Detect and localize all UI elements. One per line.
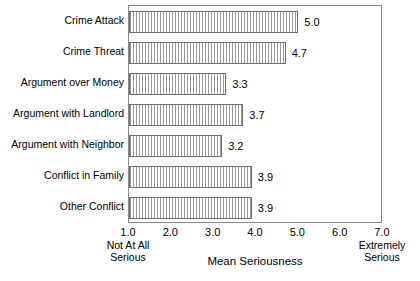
x-tick-label: 4.0 xyxy=(247,226,262,238)
x-tick-label: 2.0 xyxy=(163,226,178,238)
bar-value-label: 3.2 xyxy=(228,141,243,152)
bar-value-label: 3.3 xyxy=(232,78,247,89)
bar xyxy=(129,197,252,219)
bar-row: 3.3 xyxy=(129,73,383,95)
bar xyxy=(129,166,252,188)
bar-value-label: 3.9 xyxy=(258,203,273,214)
bar xyxy=(129,73,226,95)
bar-row: 5.0 xyxy=(129,11,383,33)
bar-value-label: 5.0 xyxy=(304,16,319,27)
bar-row: 3.7 xyxy=(129,104,383,126)
bar-value-label: 3.7 xyxy=(249,110,264,121)
category-label: Crime Attack xyxy=(0,15,124,26)
bar xyxy=(129,42,286,64)
category-label: Argument with Neighbor xyxy=(0,139,124,150)
x-tick-label: 3.0 xyxy=(205,226,220,238)
x-axis-title: Mean Seriousness xyxy=(128,255,382,268)
bar-row: 3.2 xyxy=(129,135,383,157)
axis-endpoint-right-line1: Extremely xyxy=(359,240,406,252)
category-label: Crime Threat xyxy=(0,46,124,57)
axis-endpoint-left-line1: Not At All xyxy=(107,240,150,252)
bar xyxy=(129,11,298,33)
bar xyxy=(129,104,243,126)
category-label: Argument over Money xyxy=(0,77,124,88)
x-tick-label: 5.0 xyxy=(290,226,305,238)
bar-row: 4.7 xyxy=(129,42,383,64)
bar-row: 3.9 xyxy=(129,166,383,188)
x-tick-label: 6.0 xyxy=(332,226,347,238)
bar-value-label: 4.7 xyxy=(292,47,307,58)
category-label: Argument with Landlord xyxy=(0,108,124,119)
category-label: Conflict in Family xyxy=(0,170,124,181)
bar-chart: Crime AttackCrime ThreatArgument over Mo… xyxy=(0,0,420,281)
plot-area: 5.04.73.33.73.23.93.9 xyxy=(128,5,382,223)
x-tick-label: 1.0 xyxy=(120,226,135,238)
bar-row: 3.9 xyxy=(129,197,383,219)
bar-value-label: 3.9 xyxy=(258,172,273,183)
x-tick-label: 7.0 xyxy=(374,226,389,238)
bar xyxy=(129,135,222,157)
category-label: Other Conflict xyxy=(0,201,124,212)
